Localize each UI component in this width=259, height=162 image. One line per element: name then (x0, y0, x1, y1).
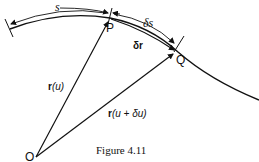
label-r-u: r(u) (48, 82, 64, 92)
point-o-label: O (25, 151, 34, 162)
vector-r-u (36, 22, 108, 157)
curve-diagram (0, 0, 259, 162)
vector-r-u-du (36, 54, 173, 157)
label-r-u-du-arg: (u + δu) (112, 108, 147, 119)
label-r-u-arg: (u) (52, 81, 64, 92)
label-delta-r: δr (133, 41, 143, 51)
label-r-u-du: r(u + δu) (108, 109, 147, 119)
label-s: s (55, 1, 60, 13)
label-delta-s: δs (143, 17, 153, 29)
point-q-label: Q (176, 54, 185, 66)
q-tick (174, 36, 184, 52)
figure-caption: Figure 4.11 (96, 145, 146, 156)
point-p-label: P (106, 22, 114, 34)
